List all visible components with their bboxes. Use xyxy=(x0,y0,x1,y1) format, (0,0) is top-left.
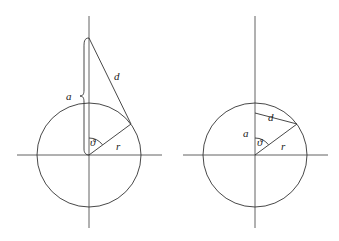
left-brace-a xyxy=(80,38,89,155)
left-label-d: d xyxy=(114,70,120,82)
right-chord-d xyxy=(255,113,297,124)
left-diagram: d a ϑ r xyxy=(17,16,162,228)
right-label-r: r xyxy=(281,140,286,152)
right-label-a: a xyxy=(243,127,249,139)
right-label-d: d xyxy=(268,111,274,123)
left-label-r: r xyxy=(116,140,121,152)
left-distance-d xyxy=(89,38,131,124)
diagram-canvas: d a ϑ r d a ϑ r xyxy=(0,0,339,241)
right-diagram: d a ϑ r xyxy=(183,16,328,228)
left-label-theta: ϑ xyxy=(90,136,96,148)
right-label-theta: ϑ xyxy=(257,136,263,148)
left-label-a: a xyxy=(66,90,72,102)
